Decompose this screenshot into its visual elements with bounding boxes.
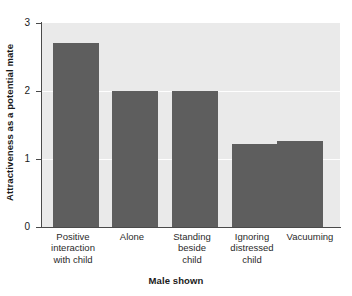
bar-alone — [112, 91, 158, 227]
y-tick-label-0: 0 — [8, 222, 30, 232]
bar-chart-figure: Attractiveness as a potential mate 3 2 1… — [0, 0, 352, 296]
plot-area — [42, 23, 340, 227]
x-axis-line — [41, 227, 341, 228]
y-tick-label-3: 3 — [8, 18, 30, 28]
y-tick-label-1: 1 — [8, 154, 30, 164]
y-axis-title: Attractiveness as a potential mate — [4, 23, 15, 223]
bar-vacuuming — [277, 141, 323, 227]
bar-positive-interaction-with-child — [53, 43, 99, 227]
x-category-label-vacuuming: Vacuuming — [272, 231, 348, 242]
bar-standing-beside-child — [172, 91, 218, 227]
bar-ignoring-distressed-child — [232, 144, 278, 227]
y-tick-label-2: 2 — [8, 86, 30, 96]
x-axis-title: Male shown — [0, 275, 352, 286]
